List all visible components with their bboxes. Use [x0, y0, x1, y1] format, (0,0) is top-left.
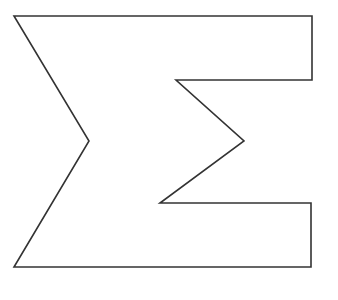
- sigma-diagram: [0, 0, 338, 300]
- sigma-outline-shape: [14, 16, 312, 267]
- diagram-canvas: [0, 0, 338, 300]
